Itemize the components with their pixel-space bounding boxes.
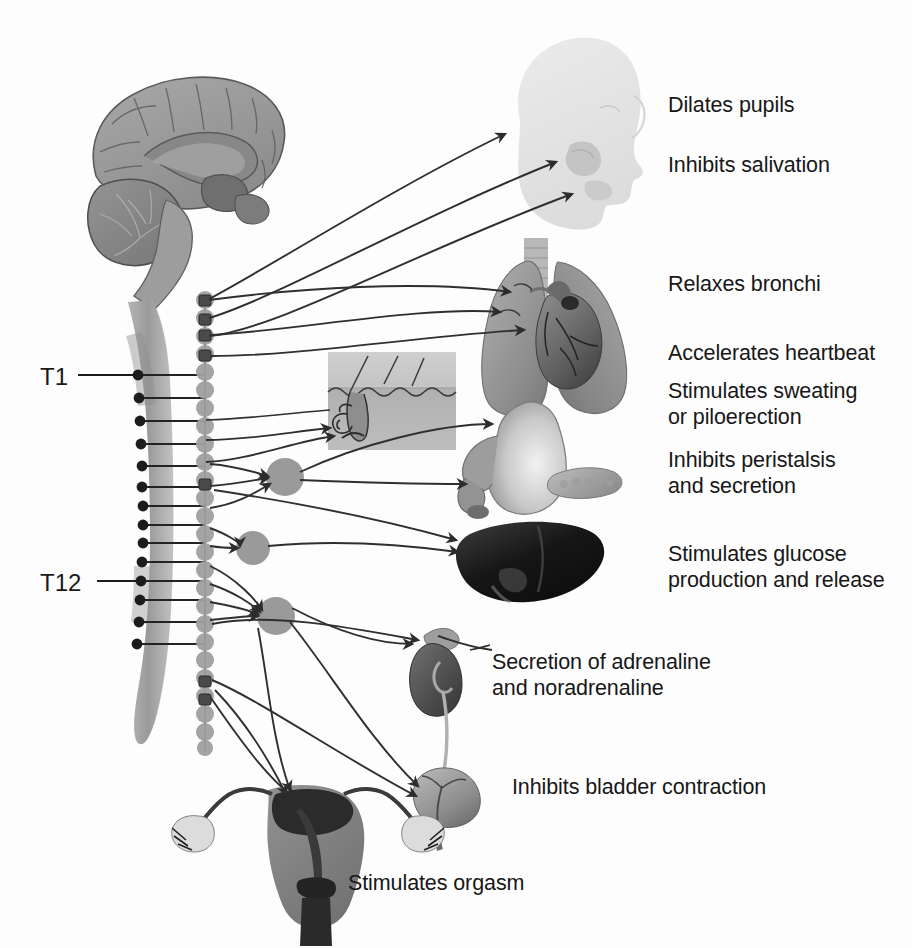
segment-label-t1: T1 — [40, 363, 68, 391]
skin-inset-connector — [206, 410, 330, 420]
kidney-with-adrenal-gland — [410, 629, 462, 771]
segment-leader-lines — [78, 375, 141, 581]
label-stimulates-sweating-line1: Stimulates sweating — [668, 378, 857, 404]
label-stimulates-sweating-line2: or piloerection — [668, 404, 802, 430]
label-relaxes-bronchi: Relaxes bronchi — [668, 271, 821, 297]
label-inhibits-peristalsis-line2: and secretion — [668, 473, 796, 499]
label-inhibits-peristalsis-line1: Inhibits peristalsis — [668, 447, 836, 473]
label-stimulates-glucose-line2: production and release — [668, 567, 885, 593]
stomach-duodenum-pancreas — [458, 402, 622, 519]
uterus-with-ovaries — [172, 785, 445, 946]
skin-hair-follicle-sweat-gland-inset — [328, 352, 456, 450]
brain-sagittal-section — [88, 77, 285, 310]
label-stimulates-glucose-line1: Stimulates glucose — [668, 541, 847, 567]
figure-canvas: T1 T12 Dilates pupils Inhibits salivatio… — [0, 0, 912, 948]
inferior-mesenteric-ganglion — [257, 597, 295, 635]
label-accelerates-heartbeat: Accelerates heartbeat — [668, 340, 875, 366]
sympathetic-ganglion-chain — [196, 291, 214, 756]
label-secretion-adrenaline-line2: and noradrenaline — [492, 675, 664, 701]
superior-mesenteric-ganglion — [236, 531, 270, 565]
label-inhibits-salivation: Inhibits salivation — [668, 152, 830, 178]
lungs-and-heart — [482, 238, 627, 416]
head-profile-silhouette — [518, 37, 645, 229]
label-stimulates-orgasm: Stimulates orgasm — [348, 870, 524, 896]
spinal-cord — [126, 300, 173, 744]
label-dilates-pupils: Dilates pupils — [668, 92, 794, 118]
celiac-ganglion — [266, 458, 304, 496]
segment-label-t12: T12 — [40, 569, 81, 597]
label-inhibits-bladder-contraction: Inhibits bladder contraction — [512, 774, 766, 800]
label-secretion-adrenaline-line1: Secretion of adrenaline — [492, 649, 711, 675]
liver — [456, 522, 604, 602]
